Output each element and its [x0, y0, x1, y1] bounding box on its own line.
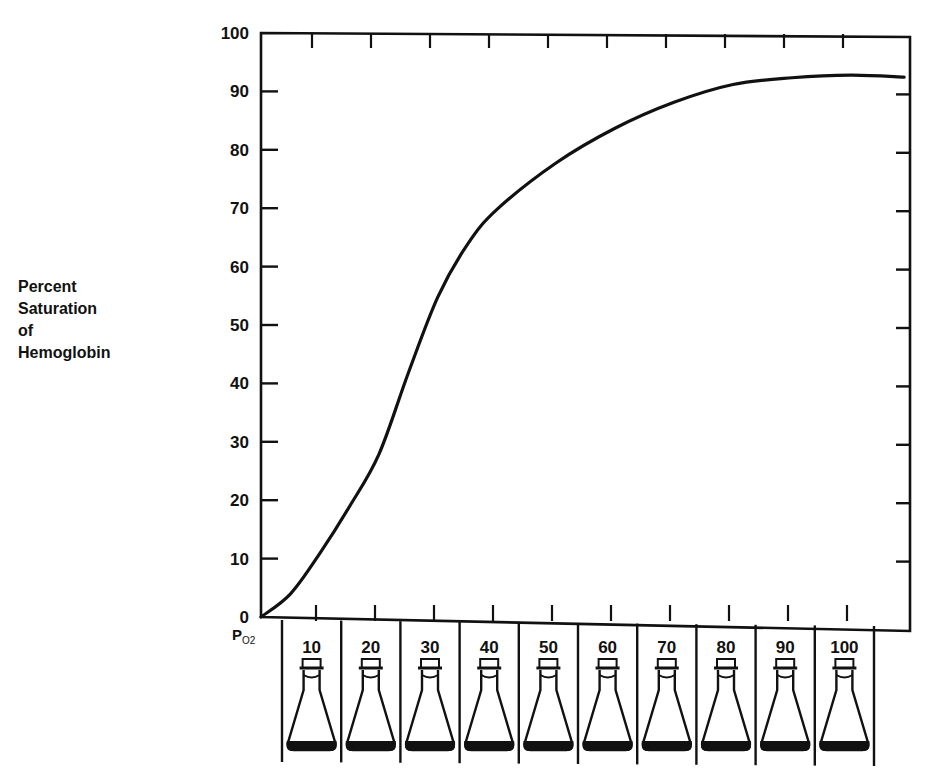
flask-neck: [481, 675, 497, 678]
flask-liquid: [346, 741, 396, 751]
y-axis-ticks: 0102030405060708090100: [221, 24, 910, 627]
y-tick-label: 70: [230, 199, 249, 218]
flask-neck: [540, 675, 556, 678]
flask-po2-label: 20: [361, 638, 380, 657]
flask-po2-label: 80: [717, 638, 736, 657]
flask-po2-label: 30: [421, 638, 440, 657]
plot-frame: [261, 33, 910, 631]
flask-icon: [583, 659, 633, 751]
flask-liquid: [760, 741, 810, 751]
flask-liquid: [287, 741, 337, 751]
flask-liquid: [701, 741, 751, 751]
flask-liquid: [523, 741, 573, 751]
y-tick-label: 10: [230, 550, 249, 569]
flask-po2-label: 10: [302, 638, 321, 657]
flask-po2-label: 60: [598, 638, 617, 657]
flask-po2-label: 100: [830, 638, 858, 657]
flask-icon: [642, 659, 692, 751]
flask-po2-label: 40: [480, 638, 499, 657]
flask-neck: [304, 675, 320, 678]
flask-liquid: [405, 741, 455, 751]
flask-liquid: [464, 741, 514, 751]
flask-icon: [523, 659, 573, 751]
oxygen-dissociation-chart: 0102030405060708090100 10203040506070809…: [0, 0, 931, 780]
flask-neck: [836, 675, 852, 678]
flask-neck: [422, 675, 438, 678]
y-tick-label: 40: [230, 374, 249, 393]
y-tick-label: 80: [230, 141, 249, 160]
saturation-curve: [261, 75, 904, 617]
flask-body: [524, 670, 572, 750]
flask-po2-label: 90: [776, 638, 795, 657]
flask-body: [643, 670, 691, 750]
flask-body: [465, 670, 513, 750]
flask-neck: [777, 675, 793, 678]
flask-neck: [659, 675, 675, 678]
flask-body: [761, 670, 809, 750]
flask-body: [584, 670, 632, 750]
flask-body: [288, 670, 336, 750]
flask-panel: 102030405060708090100: [282, 620, 874, 766]
flask-neck: [363, 675, 379, 678]
y-tick-label: 20: [230, 491, 249, 510]
flask-icon: [287, 659, 337, 751]
flask-liquid: [642, 741, 692, 751]
x-axis-ticks: [312, 34, 847, 621]
flask-body: [406, 670, 454, 750]
y-tick-label: 100: [221, 24, 249, 43]
flask-neck: [718, 675, 734, 678]
flask-icon: [819, 659, 869, 751]
flask-body: [820, 670, 868, 750]
flask-po2-label: 70: [657, 638, 676, 657]
flask-po2-label: 50: [539, 638, 558, 657]
flask-body: [702, 670, 750, 750]
flask-icon: [760, 659, 810, 751]
flask-icon: [405, 659, 455, 751]
flask-icon: [346, 659, 396, 751]
flask-liquid: [583, 741, 633, 751]
y-tick-label: 50: [230, 316, 249, 335]
flask-icon: [464, 659, 514, 751]
flask-liquid: [819, 741, 869, 751]
flask-neck: [600, 675, 616, 678]
y-tick-label: 60: [230, 258, 249, 277]
flask-body: [347, 670, 395, 750]
y-tick-label: 90: [230, 82, 249, 101]
plot-border: [261, 33, 910, 631]
flask-icon: [701, 659, 751, 751]
y-tick-label: 0: [240, 608, 249, 627]
y-tick-label: 30: [230, 433, 249, 452]
